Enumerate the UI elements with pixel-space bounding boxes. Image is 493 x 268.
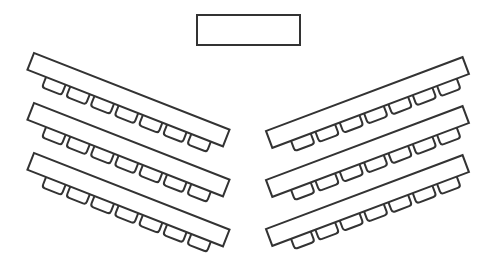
seating-diagram xyxy=(0,0,493,268)
tables-group xyxy=(23,53,472,257)
podium xyxy=(197,15,300,45)
